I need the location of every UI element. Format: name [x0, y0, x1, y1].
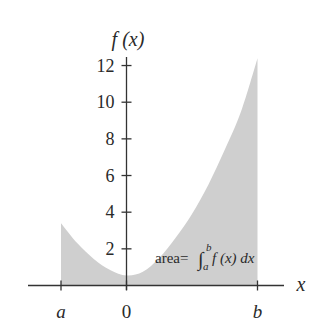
y-axis-label: f (x) — [112, 28, 145, 51]
svg-text:f (x) dx: f (x) dx — [212, 250, 255, 267]
y-tick-label: 6 — [106, 166, 115, 186]
x-tick-label: 0 — [122, 301, 132, 322]
x-tick-label: b — [253, 301, 263, 322]
y-tick-label: 2 — [106, 239, 115, 259]
y-tick-label: 4 — [106, 202, 115, 222]
y-tick-label: 8 — [106, 129, 115, 149]
area-under-curve-chart: 24681012 a0b f (x) x area= ∫ b a f (x) d… — [0, 0, 336, 330]
svg-text:a: a — [203, 260, 209, 272]
x-axis-label: x — [296, 273, 306, 295]
svg-text:area=: area= — [155, 250, 188, 266]
y-tick-label: 10 — [97, 92, 115, 112]
x-axis-ticks: a0b — [56, 281, 262, 323]
x-tick-label: a — [56, 301, 66, 322]
y-tick-label: 12 — [97, 56, 115, 76]
